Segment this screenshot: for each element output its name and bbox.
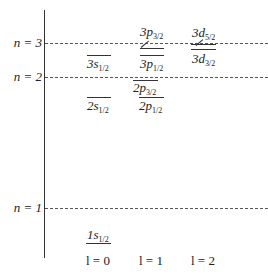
shell-line-n1 xyxy=(45,208,268,209)
level-label-3d5-2: 3d5/2 xyxy=(192,26,215,45)
shell-label-n1: n = 1 xyxy=(4,201,42,215)
level-label-3p3-2: 3p3/2 xyxy=(140,25,163,44)
level-label-3d3-2: 3d3/2 xyxy=(192,52,215,71)
level-1s1-2 xyxy=(86,243,111,244)
energy-axis xyxy=(44,10,45,258)
level-3p3-2 xyxy=(140,48,164,49)
l-label-1: l = 1 xyxy=(139,254,163,268)
level-label-3p1-2: 3p1/2 xyxy=(140,57,163,76)
level-3d3-2 xyxy=(191,49,216,50)
level-3d5-2 xyxy=(191,44,216,45)
level-label-2p1-2: 2p1/2 xyxy=(139,99,162,118)
l-label-2: l = 2 xyxy=(191,254,215,268)
level-label-1s1-2: 1s1/2 xyxy=(87,228,109,247)
level-label-3s1-2: 3s1/2 xyxy=(87,57,109,76)
shell-label-n3: n = 3 xyxy=(4,36,42,50)
level-label-2s1-2: 2s1/2 xyxy=(87,99,109,118)
shell-label-n2: n = 2 xyxy=(4,70,42,84)
l-label-0: l = 0 xyxy=(86,254,110,268)
shell-line-n2 xyxy=(45,77,268,78)
